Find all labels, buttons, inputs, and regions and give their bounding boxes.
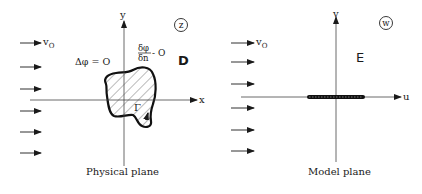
u-axis-label: u (403, 91, 410, 102)
model-plane-caption: Model plane (308, 166, 371, 177)
physical-plane-caption: Physical plane (86, 166, 159, 177)
slit-segment (307, 95, 365, 99)
svg-text:δφ: δφ (138, 43, 149, 53)
neumann-boundary-condition: δφ δn - O (138, 43, 165, 63)
model-plane-panel: v u w vO E Model plane (231, 8, 410, 177)
v-axis-label: v (332, 8, 339, 19)
conformal-mapping-diagram: y x z vO Δφ = O δφ δn - O D Γ Physical p… (0, 0, 422, 194)
flow-velocity-label-right: vO (255, 36, 268, 50)
domain-d-label: D (178, 53, 189, 68)
w-plane-label: w (382, 18, 390, 28)
x-axis-label: x (199, 94, 205, 105)
boundary-gamma-label: Γ (134, 102, 141, 113)
laplace-equation: Δφ = O (75, 56, 111, 67)
flow-velocity-label: vO (42, 36, 55, 50)
z-plane-label: z (179, 20, 184, 30)
obstacle-body (105, 67, 156, 127)
physical-plane-panel: y x z vO Δφ = O δφ δn - O D Γ Physical p… (20, 9, 205, 177)
svg-text:δn: δn (138, 53, 149, 63)
incoming-flow-arrows-left (20, 43, 41, 153)
y-axis-label: y (119, 9, 126, 20)
domain-e-label: E (356, 50, 364, 65)
svg-text:- O: - O (152, 48, 165, 58)
